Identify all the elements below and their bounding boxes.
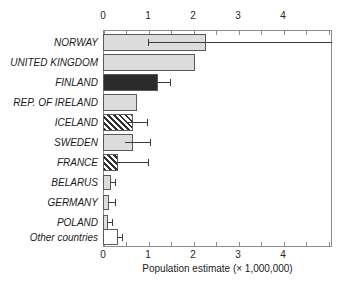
- category-label-belarus: BELARUS: [0, 173, 98, 192]
- xtick-label-bottom-4: 4: [273, 249, 293, 261]
- error-cap-high-other-countries: [122, 234, 123, 241]
- xtick-label-top-1: 1: [138, 10, 158, 22]
- error-bar-norway: [148, 42, 332, 43]
- bar-row-germany: GERMANY: [0, 193, 349, 212]
- bar-row-france: FRANCE: [0, 153, 349, 172]
- bar-france: [103, 154, 118, 171]
- error-bar-sweden: [125, 142, 150, 143]
- xtick-label-bottom-0: 0: [93, 249, 113, 261]
- xtick-label-bottom-3: 3: [228, 249, 248, 261]
- bar-row-sweden: SWEDEN: [0, 133, 349, 152]
- bar-row-united-kingdom: UNITED KINGDOM: [0, 53, 349, 72]
- xtick-label-bottom-2: 2: [183, 249, 203, 261]
- error-cap-high-iceland: [147, 119, 148, 126]
- error-cap-high-poland: [112, 219, 113, 226]
- error-bar-finland: [155, 82, 171, 83]
- bar-row-belarus: BELARUS: [0, 173, 349, 192]
- category-label-norway: NORWAY: [0, 33, 98, 52]
- error-cap-high-germany: [115, 199, 116, 206]
- xtick-label-bottom-1: 1: [138, 249, 158, 261]
- error-cap-high-sweden: [150, 139, 151, 146]
- bar-row-finland: FINLAND: [0, 73, 349, 92]
- bar-finland: [103, 74, 158, 91]
- xtick-label-top-4: 4: [273, 10, 293, 22]
- bar-row-norway: NORWAY: [0, 33, 349, 52]
- category-label-iceland: ICELAND: [0, 113, 98, 132]
- error-cap-low-norway: [148, 39, 149, 46]
- category-label-united-kingdom: UNITED KINGDOM: [0, 53, 98, 72]
- category-label-rep-of-ireland: REP. OF IRELAND: [0, 93, 98, 112]
- error-cap-high-finland: [170, 79, 171, 86]
- xtick-label-top-2: 2: [183, 10, 203, 22]
- error-cap-high-belarus: [115, 179, 116, 186]
- bar-rep-of-ireland: [103, 94, 137, 111]
- error-cap-high-france: [148, 159, 149, 166]
- bar-row-rep-of-ireland: REP. OF IRELAND: [0, 93, 349, 112]
- xtick-label-top-3: 3: [228, 10, 248, 22]
- category-label-sweden: SWEDEN: [0, 133, 98, 152]
- category-label-finland: FINLAND: [0, 73, 98, 92]
- bar-united-kingdom: [103, 54, 195, 71]
- xtick-label-top-0: 0: [93, 10, 113, 22]
- category-label-france: FRANCE: [0, 153, 98, 172]
- error-bar-iceland: [128, 122, 147, 123]
- category-label-other-countries: Other countries: [0, 228, 98, 247]
- x-axis-title: Population estimate (× 1,000,000): [103, 263, 332, 274]
- error-bar-germany: [108, 202, 115, 203]
- bar-row-other-countries: Other countries: [0, 228, 349, 247]
- bar-row-iceland: ICELAND: [0, 113, 349, 132]
- error-bar-france: [117, 162, 148, 163]
- bar-chart: 0 1 2 3 4 0 1 2 3 4 NORWAY: [0, 0, 349, 288]
- bar-other-countries: [103, 229, 118, 245]
- category-label-germany: GERMANY: [0, 193, 98, 212]
